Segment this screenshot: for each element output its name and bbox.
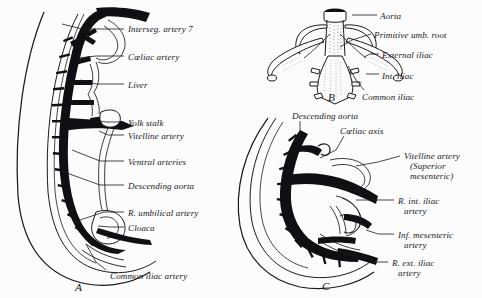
- label-cloaca: Cloaca: [128, 223, 155, 233]
- anatomical-figure: AInterseg. artery 7Cœliac arteryLiverYol…: [0, 0, 482, 298]
- leader-vitelline-artery-c: [356, 156, 400, 166]
- label-descending-aorta: Descending aorta: [128, 181, 194, 191]
- panel-letter-b: B: [328, 91, 335, 103]
- label-primitive-umb-root: Primitive umb. root: [374, 30, 447, 40]
- leader-inf-mesenteric-artery: [366, 230, 394, 234]
- panel-letter-a: A: [75, 281, 82, 293]
- label-ventral-arteries: Ventral arteries: [128, 157, 186, 167]
- body-wall-outline-c: [238, 118, 374, 289]
- yolk-stalk-loop: [100, 110, 121, 127]
- label-r-ext-iliac-artery: R. ext. iliac: [392, 258, 434, 268]
- label-interseg-artery-7: Interseg. artery 7: [128, 24, 193, 34]
- r-int-iliac-c: [344, 214, 372, 229]
- label-external-iliac: External iliac: [382, 50, 433, 60]
- label-inf-mesenteric-artery-2: artery: [404, 240, 427, 250]
- vitelline-superior-mesenteric-c: [283, 173, 378, 204]
- leader-ventral-arteries: [72, 150, 124, 161]
- panel-letter-c: C: [322, 280, 330, 292]
- aorta-shaft-stipple: [330, 22, 341, 56]
- figure-artwork: [0, 0, 482, 298]
- label-aorta: Aorta: [380, 11, 401, 21]
- label-coeliac-artery: Cœliac artery: [128, 52, 179, 62]
- panel-c-artwork: [238, 118, 378, 289]
- label-vitelline-artery-c: Vitelline artery: [404, 151, 460, 161]
- panel-a-artwork: [17, 7, 156, 285]
- label-yolk-stalk: Yolk stalk: [128, 118, 164, 128]
- label-int-iliac: Int. iliac: [382, 71, 414, 81]
- label-vitelline-superior: (Superior: [410, 161, 446, 171]
- coeliac-axis-c: [299, 145, 322, 156]
- aortic-arch-band: [96, 7, 150, 22]
- label-r-int-iliac-artery: R. int. iliac: [398, 196, 439, 206]
- label-vitelline-artery: Vitelline artery: [128, 131, 184, 141]
- label-coeliac-axis: Cœliac axis: [340, 126, 384, 136]
- label-vitelline-mesenteric: mesenteric): [410, 171, 453, 181]
- leader-descending-aorta: [64, 172, 124, 185]
- label-descending-aorta-c: Descending aorta: [292, 111, 358, 121]
- label-inf-mesenteric-artery: Inf. mesenteric: [398, 230, 453, 240]
- label-common-iliac-artery: Common iliac artery: [110, 271, 187, 281]
- label-common-iliac: Common iliac: [362, 92, 414, 102]
- aorta-shaft: [325, 20, 345, 56]
- label-r-int-iliac-artery-2: artery: [404, 206, 427, 216]
- label-r-ext-iliac-artery-2: artery: [398, 268, 421, 278]
- left-iliac-cap-b: [268, 75, 277, 81]
- label-r-umbilical-artery: R. umbilical artery: [128, 208, 198, 218]
- inf-mesenteric-c: [318, 237, 356, 245]
- label-liver: Liver: [128, 80, 148, 90]
